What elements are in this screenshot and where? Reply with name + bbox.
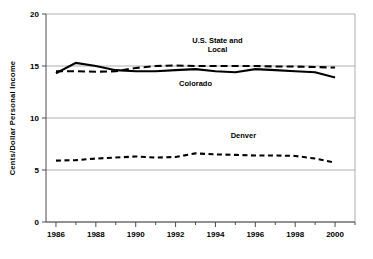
x-tick-label-1986: 1986 [47, 230, 65, 239]
x-tick-label-1988: 1988 [87, 230, 105, 239]
x-tick-label-1996: 1996 [246, 230, 264, 239]
series-line-colorado [56, 63, 335, 78]
annotation-colorado: Colorado [179, 79, 212, 88]
x-tick-label-1998: 1998 [286, 230, 304, 239]
annotation-us-state-and-local: U.S. State andLocal [192, 36, 243, 54]
series-annotations: U.S. State andLocalColoradoDenver [179, 36, 256, 140]
x-axis [46, 222, 355, 227]
x-tick-label-2000: 2000 [326, 230, 344, 239]
y-tick-label-15: 15 [30, 62, 39, 71]
y-tick-label-0: 0 [35, 218, 40, 227]
chart-container: 05101520 1986198819901992199419961998200… [0, 0, 373, 259]
y-tick-label-5: 5 [35, 166, 40, 175]
y-tick-label-20: 20 [30, 10, 39, 19]
y-axis-title: Cents/Dollar Personal Income [8, 61, 17, 176]
y-tick-label-10: 10 [30, 114, 39, 123]
series-line-denver [56, 153, 335, 162]
gridlines [46, 14, 355, 222]
annotation-denver: Denver [231, 131, 257, 140]
y-axis [42, 14, 46, 222]
y-axis-title-text: Cents/Dollar Personal Income [8, 61, 17, 176]
x-axis-tick-labels: 19861988199019921994199619982000 [47, 230, 344, 239]
y-axis-tick-labels: 05101520 [30, 10, 39, 227]
line-chart: 05101520 1986198819901992199419961998200… [0, 0, 373, 259]
x-tick-label-1992: 1992 [167, 230, 185, 239]
x-tick-label-1994: 1994 [207, 230, 225, 239]
data-series [56, 63, 335, 163]
x-tick-label-1990: 1990 [127, 230, 145, 239]
